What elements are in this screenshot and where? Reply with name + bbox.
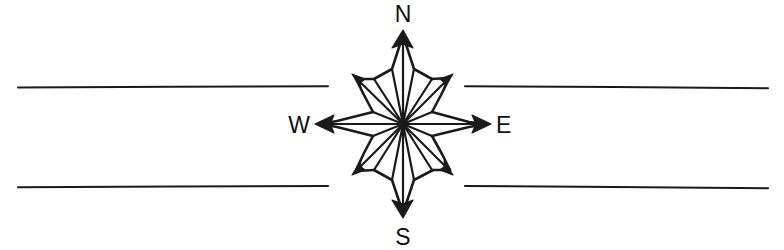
figure-canvas: N S E W	[0, 0, 784, 250]
label-north: N	[395, 1, 412, 27]
compass-rose-figure: N S E W	[0, 0, 784, 250]
label-west: W	[288, 112, 310, 138]
label-south: S	[395, 224, 410, 250]
compass-center-dot	[400, 121, 407, 127]
label-east: E	[496, 112, 511, 138]
bottom-left-rule	[18, 186, 328, 187]
top-left-rule	[18, 86, 328, 87]
